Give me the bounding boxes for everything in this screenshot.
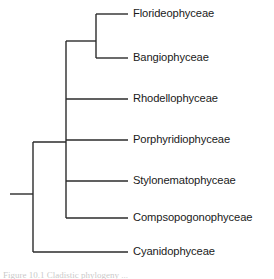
phylogenetic-tree-figure: FlorideophyceaeBangiophyceaeRhodellophyc… (0, 0, 274, 279)
taxon-label-bangiophyceae: Bangiophyceae (133, 52, 209, 63)
taxon-label-rhodellophyceae: Rhodellophyceae (133, 93, 218, 104)
taxon-label-florideophyceae: Florideophyceae (133, 8, 214, 19)
taxon-label-stylonematophyceae: Stylonematophyceae (133, 175, 236, 186)
taxon-label-compsopogonophyceae: Compsopogonophyceae (133, 212, 252, 223)
taxon-label-porphyridiophyceae: Porphyridiophyceae (133, 134, 230, 145)
taxon-labels-layer: FlorideophyceaeBangiophyceaeRhodellophyc… (0, 0, 274, 279)
figure-caption: Figure 10.1 Cladistic phylogeny ... (3, 270, 271, 279)
taxon-label-cyanidophyceae: Cyanidophyceae (133, 246, 215, 257)
